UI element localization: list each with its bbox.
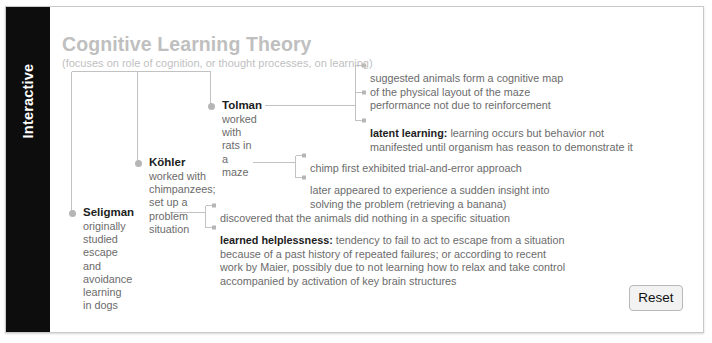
side-tab-label: Interactive — [20, 64, 36, 139]
interactive-figure-root: p p p p p g Interactive — [0, 0, 712, 343]
node-dot-icon — [208, 103, 215, 110]
diagram-subtitle: (focuses on role of cognition, or though… — [62, 57, 373, 69]
node-description: worked with chimpanzees; set up a proble… — [149, 170, 216, 236]
interactive-side-tab[interactable]: Interactive — [6, 7, 50, 332]
node-name: Seligman — [83, 206, 134, 218]
node-dot-icon — [69, 210, 76, 217]
node-name: Köhler — [149, 156, 185, 168]
node-name: Tolman — [222, 99, 262, 111]
reset-button[interactable]: Reset — [629, 285, 683, 311]
diagram-title: Cognitive Learning Theory — [62, 33, 312, 56]
node-description: worked with rats in a maze — [222, 113, 257, 179]
detail-text: performance not due to reinforcement — [370, 99, 551, 111]
detail-term: latent learning: — [370, 127, 447, 139]
detail-seligman-1: learned helplessness: tendency to fail t… — [220, 221, 620, 288]
detail-tolman-1: performance not due to reinforcement — [370, 86, 690, 113]
detail-term: learned helplessness: — [220, 234, 333, 246]
diagram-canvas: Cognitive Learning Theory (focuses on ro… — [50, 7, 703, 332]
node-description: originally studied escape and avoidance … — [83, 220, 132, 312]
node-dot-icon — [135, 160, 142, 167]
